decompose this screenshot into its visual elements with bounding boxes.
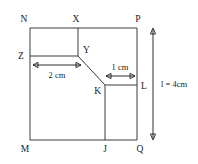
vertex-label-x: X bbox=[73, 14, 80, 24]
dimension-label-2cm: 2 cm bbox=[49, 70, 66, 80]
dimension-label-4cm: l = 4cm bbox=[161, 79, 187, 89]
geometry-figure: 2 cm 1 cm l = 4cm N X P Z Y K L M J Q bbox=[0, 0, 198, 164]
vertex-label-l: L bbox=[141, 81, 147, 91]
vertex-label-n: N bbox=[21, 14, 28, 24]
vertex-label-j: J bbox=[103, 144, 107, 154]
vertex-label-z: Z bbox=[18, 51, 24, 61]
vertex-label-k: K bbox=[94, 86, 101, 96]
dimension-4cm: l = 4cm bbox=[150, 28, 187, 140]
vertex-label-q: Q bbox=[137, 144, 144, 154]
dimension-label-1cm: 1 cm bbox=[112, 62, 129, 72]
dimension-1cm: 1 cm bbox=[106, 62, 135, 79]
dimension-2cm: 2 cm bbox=[33, 62, 81, 80]
vertex-label-p: P bbox=[135, 14, 140, 24]
edge-y-k-diagonal bbox=[78, 56, 105, 85]
vertex-label-group: N X P Z Y K L M J Q bbox=[18, 14, 147, 154]
vertex-label-m: M bbox=[21, 144, 30, 154]
figure-canvas: 2 cm 1 cm l = 4cm N X P Z Y K L M J Q bbox=[0, 0, 198, 164]
vertex-label-y: Y bbox=[83, 45, 90, 55]
